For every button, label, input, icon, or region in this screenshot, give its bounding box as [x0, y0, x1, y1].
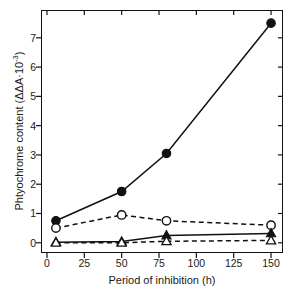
x-tick-label-25: 25	[78, 258, 90, 269]
chart-canvas	[0, 0, 297, 297]
x-tick-label-125: 125	[225, 258, 243, 269]
x-axis-label: Period of inhibition (h)	[41, 274, 283, 286]
series-line-filled-circle-solid	[56, 23, 271, 221]
data-point-open-circle-dashed-80	[162, 217, 170, 225]
y-axis-label: Phtyochrome content (ΔΔA·10-3)	[13, 52, 25, 211]
data-point-filled-circle-solid-80	[162, 149, 170, 157]
data-point-open-circle-dashed-50	[117, 211, 125, 219]
x-tick-label-50: 50	[116, 258, 128, 269]
y-axis-label-wrapper: Phtyochrome content (ΔΔA·10-3)	[9, 10, 27, 253]
data-point-open-circle-dashed-6	[52, 224, 60, 232]
y-axis-label-base: Phtyochrome content (ΔΔA·10	[13, 62, 25, 211]
figure-container: 0255075100125150 01234567 Period of inhi…	[0, 0, 297, 297]
y-axis-label-exponent: -3	[11, 55, 20, 62]
x-tick-label-100: 100	[188, 258, 206, 269]
x-tick-label-0: 0	[44, 258, 50, 269]
data-point-filled-circle-solid-150	[267, 19, 275, 27]
x-tick-label-150: 150	[262, 258, 280, 269]
data-point-filled-circle-solid-50	[117, 187, 125, 195]
x-tick-label-75: 75	[153, 258, 165, 269]
y-axis-label-tail: )	[13, 52, 25, 56]
